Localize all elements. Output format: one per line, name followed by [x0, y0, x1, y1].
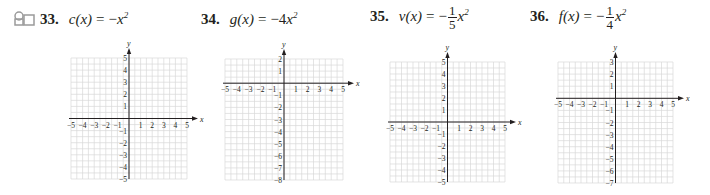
y-tick-label: −8 — [274, 176, 282, 185]
y-tick-label: −5 — [606, 155, 614, 164]
y-tick-label: −3 — [119, 151, 127, 160]
y-tick-label: 2 — [278, 55, 282, 64]
x-tick-label: 2 — [469, 124, 473, 133]
y-tick-label: −4 — [274, 128, 282, 137]
x-tick-label: −2 — [256, 85, 264, 94]
x-tick-label: 5 — [341, 85, 345, 94]
y-tick-label: −6 — [606, 167, 614, 176]
y-axis-label: y — [281, 40, 286, 49]
x-tick-label: 5 — [503, 124, 507, 133]
x-tick-label: 4 — [329, 85, 333, 94]
x-tick-label: −3 — [245, 85, 253, 94]
y-tick-label: −1 — [438, 130, 446, 139]
y-axis-arrow-icon — [445, 52, 449, 58]
x-tick-label: −3 — [577, 100, 585, 109]
x-axis-arrow-icon — [192, 116, 198, 120]
y-tick-label: −4 — [438, 166, 446, 175]
x-tick-label: −4 — [398, 124, 406, 133]
x-tick-label: 1 — [139, 121, 143, 130]
x-tick-label: −3 — [90, 121, 98, 130]
x-tick-label: 3 — [162, 121, 166, 130]
y-tick-label: −5 — [438, 178, 446, 187]
x-tick-label: −5 — [221, 85, 229, 94]
x-tick-label: 1 — [294, 85, 298, 94]
y-tick-label: −1 — [606, 106, 614, 115]
y-tick-label: −3 — [274, 116, 282, 125]
x-tick-label: 2 — [150, 121, 154, 130]
y-tick-label: −5 — [274, 140, 282, 149]
y-tick-label: −1 — [119, 127, 127, 136]
y-tick-label: 3 — [610, 58, 614, 67]
x-tick-label: 4 — [492, 124, 496, 133]
x-tick-label: 4 — [660, 100, 664, 109]
y-axis-arrow-icon — [282, 49, 286, 55]
y-tick-label: 1 — [278, 67, 282, 76]
y-tick-label: −4 — [119, 163, 127, 172]
y-tick-label: 1 — [123, 102, 127, 111]
x-tick-label: 2 — [637, 100, 641, 109]
y-axis-label: y — [126, 39, 131, 48]
x-tick-label: −5 — [67, 121, 75, 130]
x-tick-label: 3 — [648, 100, 652, 109]
x-tick-label: −2 — [589, 100, 597, 109]
y-tick-label: 5 — [442, 58, 446, 67]
x-tick-label: −5 — [386, 124, 394, 133]
y-tick-label: 4 — [123, 66, 127, 75]
y-tick-label: −2 — [119, 139, 127, 148]
x-axis-arrow-icon — [348, 81, 354, 85]
y-tick-label: 4 — [442, 70, 446, 79]
y-tick-label: −1 — [274, 91, 282, 100]
x-tick-label: 3 — [318, 85, 322, 94]
y-tick-label: −5 — [119, 175, 127, 184]
y-axis-label: y — [613, 43, 618, 52]
y-tick-label: −2 — [438, 142, 446, 151]
y-tick-label: 2 — [442, 94, 446, 103]
x-tick-label: −4 — [566, 100, 574, 109]
x-tick-label: 1 — [457, 124, 461, 133]
x-tick-label: −2 — [102, 121, 110, 130]
x-tick-label: −2 — [421, 124, 429, 133]
x-tick-label: −5 — [554, 100, 562, 109]
y-axis-label: y — [445, 43, 450, 52]
coordinate-grids: xy−5−4−3−2−112345−5−4−3−2−112345xy−5−4−3… — [0, 0, 710, 195]
x-tick-label: −3 — [409, 124, 417, 133]
x-tick-label: −4 — [79, 121, 87, 130]
x-axis-label: x — [355, 79, 360, 88]
y-tick-label: −3 — [606, 131, 614, 140]
y-tick-label: 3 — [442, 82, 446, 91]
y-tick-label: −7 — [606, 179, 614, 188]
x-tick-label: 5 — [671, 100, 675, 109]
x-tick-label: 2 — [306, 85, 310, 94]
y-tick-label: −4 — [606, 143, 614, 152]
y-tick-label: 2 — [610, 70, 614, 79]
x-tick-label: 5 — [185, 121, 189, 130]
x-tick-label: 3 — [480, 124, 484, 133]
y-axis-arrow-icon — [613, 52, 617, 58]
y-tick-label: 3 — [123, 78, 127, 87]
x-axis-arrow-icon — [510, 120, 516, 124]
y-axis-arrow-icon — [127, 48, 131, 54]
x-axis-label: x — [685, 94, 690, 103]
x-tick-label: 1 — [625, 100, 629, 109]
y-tick-label: 5 — [123, 54, 127, 63]
x-axis-label: x — [199, 115, 204, 124]
x-axis-arrow-icon — [678, 96, 684, 100]
y-tick-label: −2 — [274, 103, 282, 112]
y-tick-label: 1 — [610, 82, 614, 91]
y-tick-label: 1 — [442, 106, 446, 115]
y-tick-label: −6 — [274, 152, 282, 161]
x-tick-label: 4 — [174, 121, 178, 130]
y-tick-label: −7 — [274, 164, 282, 173]
x-axis-label: x — [517, 118, 522, 127]
x-tick-label: −4 — [233, 85, 241, 94]
y-tick-label: −3 — [438, 154, 446, 163]
y-tick-label: −2 — [606, 119, 614, 128]
y-tick-label: 2 — [123, 90, 127, 99]
